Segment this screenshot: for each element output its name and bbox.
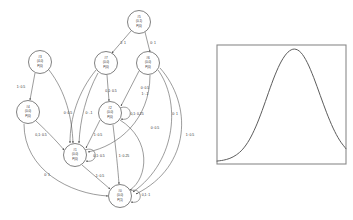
edge-label-1-self: 0,1: 0.5 [93, 154, 104, 158]
edge-label-2-to-0b: 0: 0.5 [151, 126, 160, 130]
edge-label-0-self: 0,1: 1 [142, 193, 151, 197]
screenshot-root: #5 (0,1) P(0) #3 (4,0) P(0) #7 (0,0) P(0… [0, 0, 353, 220]
edge-3-to-4 [30, 73, 35, 100]
edge-label-4-to-1: 0,1: 0.5 [35, 133, 46, 137]
edge-label-2-to-1: 1: 0.5 [94, 133, 103, 137]
edge-7-to-1-alt [70, 70, 96, 143]
edge-label-7-to-2: 0,1: 0.5 [105, 89, 116, 93]
nodes-layer: #5 (0,1) P(0) #3 (4,0) P(0) #7 (0,0) P(0… [17, 11, 160, 208]
node-0[interactable]: #0 (0,0) P(1) [109, 185, 132, 208]
edge-label-6-to-0b: 1: 0.5 [186, 133, 195, 137]
edge-label-2-to-0: 1: 0.25 [119, 154, 129, 158]
edge-label-3-to-4: 1: 0.5 [17, 85, 26, 89]
node-3[interactable]: #3 (4,0) P(0) [29, 51, 52, 74]
node-2[interactable]: #2 (0,0) P(0) [99, 102, 122, 125]
node-7[interactable]: #7 (0,0) P(0) [95, 52, 118, 75]
edge-label-1-to-0: 1: 0.5 [96, 174, 105, 178]
edge-label-6-to-2b: 1: -1 [142, 92, 149, 96]
node-5-prob: P(0) [136, 24, 142, 28]
state-transition-diagram: #5 (0,1) P(0) #3 (4,0) P(0) #7 (0,0) P(0… [0, 0, 210, 220]
node-0-prob: P(1) [117, 198, 123, 202]
edge-label-5-to-7: 1: 1 [120, 41, 126, 45]
edge-label-4-to-0: 0: 1 [44, 173, 50, 177]
chart-canvas [214, 32, 350, 172]
node-5[interactable]: #5 (0,1) P(0) [128, 11, 151, 34]
node-6-prob: P(0) [145, 65, 151, 69]
edge-label-7-to-1: 0: -1 [86, 111, 93, 115]
node-4[interactable]: #4 (0,0) P(0) [17, 101, 40, 124]
edge-3-to-1 [49, 70, 73, 143]
node-4-prob: P(0) [25, 114, 31, 118]
edge-6-to-0 [133, 70, 172, 192]
edge-label-3-to-1: 0: 0.5 [64, 111, 73, 115]
edge-6-to-2 [121, 71, 139, 106]
edge-label-6-to-0: 0: 1 [172, 112, 178, 116]
node-2-prob: P(0) [107, 115, 113, 119]
node-3-prob: P(0) [37, 64, 43, 68]
node-1-prob: P(0) [72, 157, 78, 161]
graph-canvas: #5 (0,1) P(0) #3 (4,0) P(0) #7 (0,0) P(0… [0, 0, 210, 220]
bell-curve-chart [214, 32, 350, 172]
edge-label-6-to-2: 0: 0.5 [141, 86, 150, 90]
edge-label-2-self: 0,1: 0.25 [130, 112, 143, 116]
edge-label-5-to-6: 0: 1 [150, 41, 156, 45]
node-6[interactable]: #6 (0,0) P(0) [137, 52, 160, 75]
edge-7-to-2 [107, 75, 109, 101]
chart-frame [217, 45, 346, 164]
node-1[interactable]: #1 (0,0) P(0) [64, 144, 87, 167]
node-7-prob: P(0) [103, 65, 109, 69]
